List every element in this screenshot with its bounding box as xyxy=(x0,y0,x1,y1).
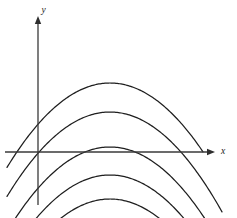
plot-canvas: x y xyxy=(0,0,237,218)
x-axis-label: x xyxy=(220,146,226,156)
y-axis-label: y xyxy=(41,5,47,15)
plot-background xyxy=(0,0,237,218)
parabola-family-figure: x y xyxy=(0,0,237,218)
